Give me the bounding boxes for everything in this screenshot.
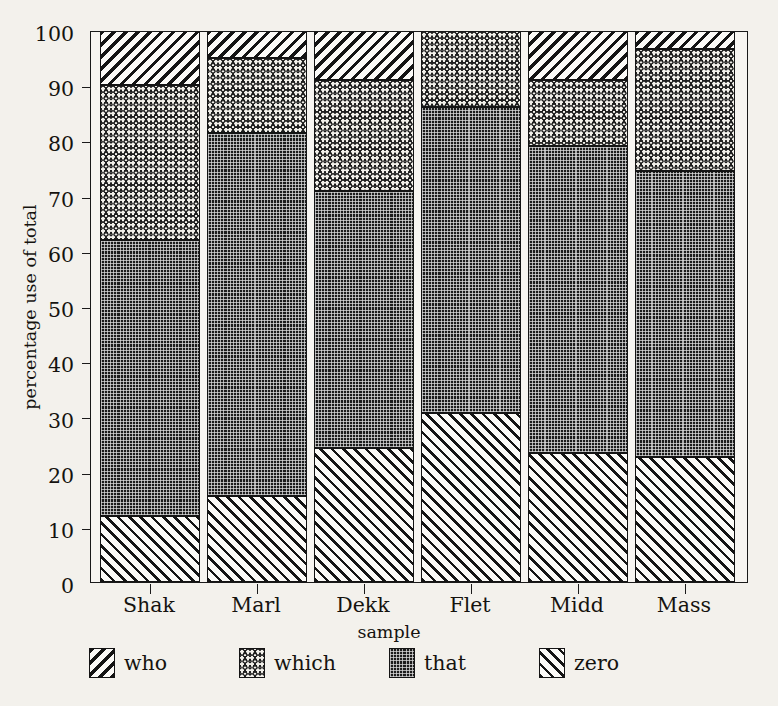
y-tick-30 bbox=[82, 418, 91, 419]
legend-label-who: who bbox=[124, 653, 167, 674]
bar-segment-marl-who[interactable] bbox=[207, 32, 307, 58]
bar-segment-shak-who[interactable] bbox=[100, 32, 200, 85]
legend-item-which[interactable]: which bbox=[239, 648, 389, 678]
legend-swatch-who-icon bbox=[89, 648, 115, 678]
bar-segment-midd-zero[interactable] bbox=[528, 453, 628, 582]
y-tick-90 bbox=[82, 87, 91, 88]
y-tick-label-20: 20 bbox=[8, 466, 74, 487]
bar-flet[interactable] bbox=[421, 32, 521, 582]
y-tick-label-100: 100 bbox=[8, 24, 74, 45]
x-tick-label-midd: Midd bbox=[527, 595, 627, 616]
bar-segment-dekk-zero[interactable] bbox=[314, 448, 414, 582]
legend-swatch-which-icon bbox=[239, 648, 265, 678]
y-tick-label-80: 80 bbox=[8, 134, 74, 155]
bar-segment-marl-which[interactable] bbox=[207, 58, 307, 134]
y-tick-60 bbox=[82, 253, 91, 254]
bar-segment-dekk-who[interactable] bbox=[314, 32, 414, 80]
legend-item-zero[interactable]: zero bbox=[539, 648, 689, 678]
legend-label-that: that bbox=[424, 653, 466, 674]
bar-segment-flet-which[interactable] bbox=[421, 32, 521, 107]
y-tick-label-90: 90 bbox=[8, 79, 74, 100]
bar-segment-mass-that[interactable] bbox=[635, 171, 735, 457]
bar-segment-dekk-which[interactable] bbox=[314, 80, 414, 192]
bar-segment-shak-which[interactable] bbox=[100, 85, 200, 240]
bars-container bbox=[91, 32, 747, 582]
y-tick-label-0: 0 bbox=[8, 576, 74, 597]
bar-segment-dekk-that[interactable] bbox=[314, 191, 414, 448]
y-tick-50 bbox=[82, 308, 91, 309]
x-tick-label-flet: Flet bbox=[420, 595, 520, 616]
chart-legend: who which that zero bbox=[0, 648, 778, 678]
bar-segment-flet-zero[interactable] bbox=[421, 413, 521, 582]
bar-segment-mass-which[interactable] bbox=[635, 49, 735, 170]
y-tick-label-40: 40 bbox=[8, 355, 74, 376]
y-tick-80 bbox=[82, 142, 91, 143]
x-tick-label-shak: Shak bbox=[99, 595, 199, 616]
plot-area bbox=[90, 31, 748, 583]
x-tick-label-marl: Marl bbox=[206, 595, 306, 616]
bar-segment-midd-which[interactable] bbox=[528, 80, 628, 146]
bar-segment-mass-who[interactable] bbox=[635, 32, 735, 49]
legend-item-that[interactable]: that bbox=[389, 648, 539, 678]
y-tick-20 bbox=[82, 474, 91, 475]
y-tick-40 bbox=[82, 363, 91, 364]
bar-segment-shak-that[interactable] bbox=[100, 240, 200, 516]
y-tick-label-50: 50 bbox=[8, 300, 74, 321]
bar-segment-midd-who[interactable] bbox=[528, 32, 628, 80]
x-axis-title: sample bbox=[0, 622, 778, 642]
legend-label-zero: zero bbox=[574, 653, 619, 674]
x-tick-label-dekk: Dekk bbox=[313, 595, 413, 616]
bar-segment-marl-zero[interactable] bbox=[207, 496, 307, 582]
bar-segment-shak-zero[interactable] bbox=[100, 516, 200, 582]
bar-segment-mass-zero[interactable] bbox=[635, 457, 735, 582]
bar-shak[interactable] bbox=[100, 32, 200, 582]
y-tick-label-10: 10 bbox=[8, 521, 74, 542]
bar-mass[interactable] bbox=[635, 32, 735, 582]
legend-swatch-zero-icon bbox=[539, 648, 565, 678]
legend-swatch-that-icon bbox=[389, 648, 415, 678]
y-tick-70 bbox=[82, 198, 91, 199]
y-tick-10 bbox=[82, 529, 91, 530]
y-tick-label-30: 30 bbox=[8, 411, 74, 432]
legend-label-which: which bbox=[274, 653, 336, 674]
bar-segment-midd-that[interactable] bbox=[528, 146, 628, 453]
bar-midd[interactable] bbox=[528, 32, 628, 582]
y-tick-label-70: 70 bbox=[8, 190, 74, 211]
x-tick-label-mass: Mass bbox=[634, 595, 734, 616]
bar-segment-flet-that[interactable] bbox=[421, 107, 521, 413]
bar-segment-marl-that[interactable] bbox=[207, 133, 307, 496]
bar-marl[interactable] bbox=[207, 32, 307, 582]
y-tick-label-60: 60 bbox=[8, 245, 74, 266]
bar-dekk[interactable] bbox=[314, 32, 414, 582]
legend-item-who[interactable]: who bbox=[89, 648, 239, 678]
chart-root: percentage use of total 100 90 80 70 60 … bbox=[0, 0, 778, 706]
